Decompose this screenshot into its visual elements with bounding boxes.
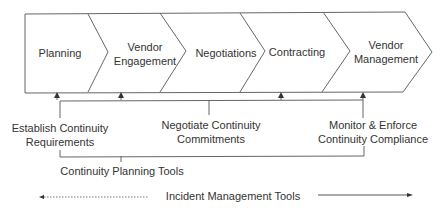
incident-right-arrowhead xyxy=(407,193,413,197)
incident-management-tools-label: Incident Management Tools xyxy=(150,189,316,203)
stage-negotiations: Negotiations xyxy=(186,46,266,60)
stage-planning: Planning xyxy=(30,46,90,60)
stage-contracting: Contracting xyxy=(262,45,332,59)
activity-negotiate-commitments: Negotiate Continuity Commitments xyxy=(156,118,266,146)
activity-establish-requirements: Establish Continuity Requirements xyxy=(8,121,112,149)
activity-monitor-compliance: Monitor & Enforce Continuity Compliance xyxy=(312,118,434,146)
incident-left-arrowhead xyxy=(39,195,44,199)
process-diagram xyxy=(0,0,440,213)
stage-vendor-engagement: Vendor Engagement xyxy=(108,40,182,68)
continuity-planning-tools-label: Continuity Planning Tools xyxy=(60,164,184,178)
stage-vendor-management: Vendor Management xyxy=(350,38,422,66)
